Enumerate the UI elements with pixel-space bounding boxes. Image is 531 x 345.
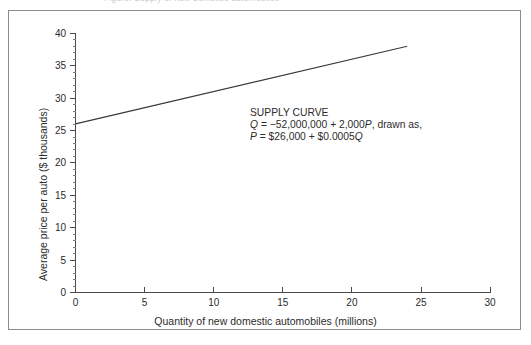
annotation-eq3-mid: = $26,000 + $0.0005 xyxy=(257,131,355,142)
x-tick-label-0: 0 xyxy=(66,297,86,308)
annotation-equation-price: P = $26,000 + $0.0005Q xyxy=(250,131,422,143)
annotation-equation-quantity: Q = −52,000,000 + 2,000P, drawn as, xyxy=(250,119,422,131)
annotation-eq2-mid: = −52,000,000 + 2,000 xyxy=(258,119,365,130)
annotation-eq2-post: , drawn as, xyxy=(372,119,422,130)
y-tick-label-5: 5 xyxy=(46,255,66,266)
annotation-var-p: P xyxy=(250,131,257,142)
annotation-var-q: Q xyxy=(250,119,258,130)
y-tick-label-35: 35 xyxy=(46,60,66,71)
y-axis-title: Average price per auto ($ thousands) xyxy=(37,108,49,281)
annotation-title: SUPPLY CURVE xyxy=(250,107,422,119)
x-axis-title: Quantity of new domestic automobiles (mi… xyxy=(0,315,531,327)
x-tick-label-25: 25 xyxy=(411,297,431,308)
x-tick-label-15: 15 xyxy=(273,297,293,308)
x-tick-label-5: 5 xyxy=(135,297,155,308)
x-tick-label-30: 30 xyxy=(480,297,500,308)
y-tick-label-0: 0 xyxy=(46,287,66,298)
cut-off-caption-strip: Figure: Supply of new domestic automobil… xyxy=(0,0,531,8)
y-tick-label-30: 30 xyxy=(46,93,66,104)
x-tick-label-10: 10 xyxy=(204,297,224,308)
annotation-var-p-inline: P xyxy=(365,119,372,130)
y-tick-label-15: 15 xyxy=(46,190,66,201)
y-tick-label-25: 25 xyxy=(46,125,66,136)
y-tick-label-20: 20 xyxy=(46,157,66,168)
x-tick-label-20: 20 xyxy=(342,297,362,308)
cut-off-caption-text: Figure: Supply of new domestic automobil… xyxy=(104,0,279,3)
figure-frame xyxy=(8,11,521,330)
y-tick-label-40: 40 xyxy=(46,28,66,39)
y-tick-label-10: 10 xyxy=(46,222,66,233)
annotation-var-q-inline: Q xyxy=(355,131,363,142)
supply-curve-annotation: SUPPLY CURVE Q = −52,000,000 + 2,000P, d… xyxy=(250,107,422,144)
